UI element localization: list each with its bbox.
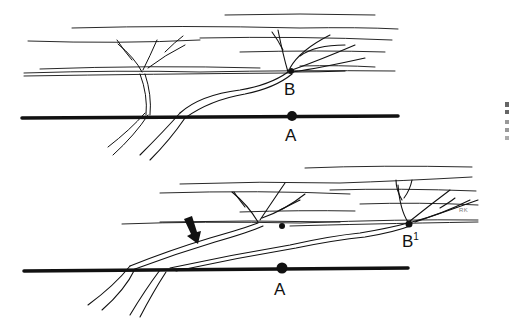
down-right-arrow [184, 216, 201, 244]
margin-text-fragment [505, 128, 509, 132]
top-long-follicle [140, 30, 365, 160]
margin-text-fragment [505, 136, 509, 140]
bottom-follicle-2 [130, 180, 478, 317]
label-point-b1-sup: 1 [413, 231, 419, 242]
label-point-b1: B1 [402, 232, 419, 250]
margin-text-fragment [505, 110, 509, 114]
label-point-b: B [284, 81, 295, 98]
margin-text-fragment [505, 120, 509, 124]
margin-text-fragment [505, 102, 509, 107]
bottom-follicle-1 [88, 183, 305, 310]
label-point-a-top: A [285, 127, 296, 144]
label-point-a-bottom: A [274, 281, 285, 298]
artist-signature: RK [459, 207, 468, 213]
label-point-b1-base: B [402, 232, 413, 251]
bottom-panel-layers [122, 166, 478, 226]
top-left-follicle [108, 36, 185, 155]
